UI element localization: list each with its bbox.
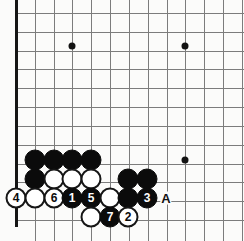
move-number-label: 3: [144, 192, 151, 204]
black-stone-g2: [137, 169, 158, 190]
move-number-label: 2: [125, 211, 132, 223]
grid-line-horizontal: [16, 145, 244, 146]
black-stone-move-3: 3: [137, 188, 158, 209]
white-stone-d2: [81, 169, 102, 190]
grid-line-horizontal: [16, 88, 244, 89]
white-stone-move-4: 4: [6, 188, 27, 209]
grid-line-horizontal: [16, 13, 244, 14]
point-marker-a: A: [160, 192, 171, 205]
grid-line-vertical: [204, 0, 205, 241]
grid-line-horizontal: [16, 32, 244, 33]
star-point-upper-left: [69, 43, 76, 50]
white-stone-c2: [62, 169, 83, 190]
move-number-label: 1: [69, 192, 76, 204]
go-board-diagram: 4615372 A: [0, 0, 244, 241]
grid-line-horizontal: [16, 51, 244, 52]
black-stone-a1: [25, 150, 46, 171]
grid-line-horizontal: [16, 69, 244, 70]
star-point-lower-right: [182, 157, 189, 164]
black-stone-move-5: 5: [81, 188, 102, 209]
white-stone-move-2: 2: [118, 207, 139, 228]
black-stone-f3: [118, 188, 139, 209]
move-number-label: 5: [88, 192, 95, 204]
move-number-label: 4: [13, 192, 20, 204]
white-stone-a3: [25, 188, 46, 209]
black-stone-move-1: 1: [62, 188, 83, 209]
black-stone-d1: [81, 150, 102, 171]
grid-line-horizontal: [16, 126, 244, 127]
grid-line-vertical: [242, 0, 243, 241]
grid-line-vertical: [185, 0, 186, 241]
grid-line-vertical: [223, 0, 224, 241]
black-stone-f2: [118, 169, 139, 190]
black-stone-a2: [25, 169, 46, 190]
move-number-label: 6: [51, 192, 58, 204]
grid-line-horizontal: [16, 107, 244, 108]
black-stone-c1: [62, 150, 83, 171]
move-number-label: 7: [107, 211, 114, 223]
white-stone-d4: [81, 207, 102, 228]
star-point-upper-right: [182, 43, 189, 50]
